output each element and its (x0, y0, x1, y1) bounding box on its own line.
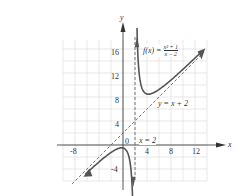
y-tick-8: 8 (115, 97, 119, 105)
function-prefix: f(x) = (143, 47, 162, 55)
function-label: f(x) = x² + 1 x − 2 (143, 44, 178, 57)
oblique-asymptote-label: y = x + 2 (158, 100, 188, 108)
function-denominator: x − 2 (164, 51, 177, 57)
x-tick-12: 12 (192, 148, 200, 156)
graph (0, 0, 243, 196)
origin-label: 0 (125, 138, 129, 146)
y-tick-4: 4 (115, 121, 119, 129)
vertical-asymptote-label: x = 2 (139, 137, 156, 145)
function-fraction: x² + 1 x − 2 (164, 44, 179, 57)
x-tick-8: 8 (169, 148, 173, 156)
y-tick-12: 12 (111, 73, 119, 81)
y-axis-label: y (120, 14, 124, 22)
x-axis-label: x (228, 141, 232, 149)
x-tick-neg8: -8 (70, 148, 77, 156)
function-numerator: x² + 1 (164, 44, 179, 51)
y-tick-neg4: -4 (111, 166, 118, 174)
y-tick-16: 16 (111, 49, 119, 57)
axes (57, 22, 226, 190)
x-tick-4: 4 (145, 148, 149, 156)
